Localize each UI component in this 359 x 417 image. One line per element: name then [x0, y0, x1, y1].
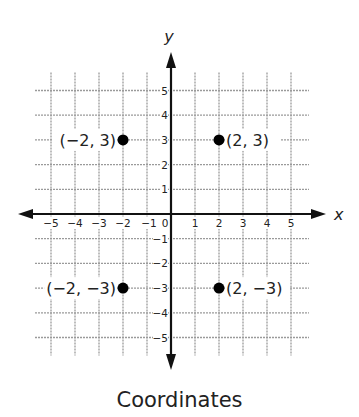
svg-text:−1: −1: [141, 217, 156, 229]
svg-text:1: 1: [161, 183, 168, 195]
svg-text:−2: −2: [115, 217, 130, 229]
svg-text:4: 4: [264, 217, 271, 229]
chart-caption: Coordinates: [0, 388, 359, 412]
svg-text:5: 5: [288, 217, 295, 229]
svg-text:(2, 3): (2, 3): [226, 131, 269, 150]
svg-text:(−2, 3): (−2, 3): [60, 131, 116, 150]
svg-text:y: y: [163, 27, 174, 46]
svg-text:−2: −2: [153, 257, 168, 269]
svg-text:0: 0: [162, 217, 169, 229]
svg-text:x: x: [333, 205, 344, 224]
svg-text:3: 3: [161, 134, 168, 146]
svg-text:4: 4: [161, 109, 168, 121]
svg-text:−4: −4: [153, 307, 169, 319]
coordinate-plane: xy −5−4−3−2−101234554321−1−2−3−4−5 (−2, …: [0, 0, 359, 380]
svg-text:−5: −5: [153, 332, 168, 344]
svg-text:1: 1: [192, 217, 199, 229]
svg-text:−3: −3: [91, 217, 106, 229]
svg-text:2: 2: [161, 159, 168, 171]
svg-text:(−2, −3): (−2, −3): [46, 279, 116, 298]
svg-text:(2, −3): (2, −3): [226, 279, 282, 298]
svg-text:2: 2: [216, 217, 223, 229]
svg-text:−3: −3: [153, 282, 168, 294]
svg-text:5: 5: [161, 85, 168, 97]
svg-text:3: 3: [240, 217, 247, 229]
axes: xy: [18, 27, 344, 370]
svg-text:−5: −5: [43, 217, 58, 229]
svg-text:−4: −4: [67, 217, 83, 229]
svg-text:−1: −1: [153, 233, 168, 245]
